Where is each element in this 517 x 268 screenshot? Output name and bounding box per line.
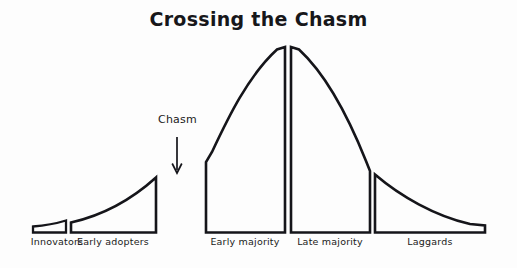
segment-shape-early-adopters — [71, 178, 156, 233]
segment-label-early-adopters: Early adopters — [63, 236, 163, 247]
chasm-arrow-icon — [172, 137, 182, 173]
segment-label-laggards: Laggards — [380, 236, 480, 247]
segment-shape-early-majority — [206, 47, 285, 233]
segment-label-late-majority: Late majority — [280, 236, 380, 247]
segment-shape-laggards — [375, 175, 485, 233]
segment-shape-innovators — [33, 221, 66, 233]
adoption-curve-graphic — [0, 0, 517, 268]
chasm-annotation-label: Chasm — [158, 113, 197, 126]
chasm-diagram: Crossing the Chasm Chasm Innovators Earl… — [0, 0, 517, 268]
segment-shape-late-majority — [291, 47, 370, 233]
